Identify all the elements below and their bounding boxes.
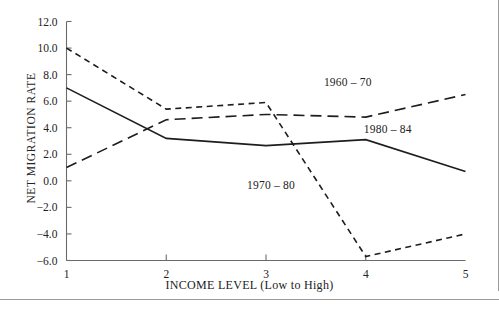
series-label: 1970 – 80 — [247, 179, 295, 191]
y-tick-label: 4.0 — [43, 122, 58, 134]
line-chart-svg: 12.010.08.06.04.02.00.0−2.0−4.0−6.0 1234… — [0, 0, 499, 314]
y-tick-label: −4.0 — [37, 228, 58, 240]
y-axis-tick-labels: 12.010.08.06.04.02.00.0−2.0−4.0−6.0 — [37, 16, 58, 267]
y-tick-label: 12.0 — [37, 16, 57, 28]
y-tick-label: 0.0 — [43, 175, 58, 187]
y-tick-label: −2.0 — [37, 201, 58, 213]
x-tick-label: 4 — [363, 268, 369, 280]
y-tick-label: 10.0 — [37, 42, 57, 54]
chart-page: NET MIGRATION RATE INCOME LEVEL (Low to … — [0, 0, 499, 314]
y-tick-label: 6.0 — [43, 95, 58, 107]
y-axis-tick-marks — [67, 22, 72, 261]
x-tick-label: 3 — [263, 268, 269, 280]
x-axis-tick-marks — [166, 255, 366, 261]
data-series-group — [67, 48, 466, 256]
y-tick-label: −6.0 — [37, 255, 58, 267]
series-label: 1980 – 84 — [364, 123, 412, 135]
y-tick-label: 8.0 — [43, 69, 58, 81]
x-tick-label: 5 — [463, 268, 469, 280]
x-tick-label: 1 — [64, 268, 70, 280]
series-label: 1960 – 70 — [324, 76, 372, 88]
series-annotation-group: 1970 – 801960 – 701980 – 84 — [247, 76, 412, 191]
y-tick-label: 2.0 — [43, 148, 58, 160]
x-tick-label: 2 — [163, 268, 169, 280]
x-axis-tick-labels: 12345 — [64, 268, 469, 280]
